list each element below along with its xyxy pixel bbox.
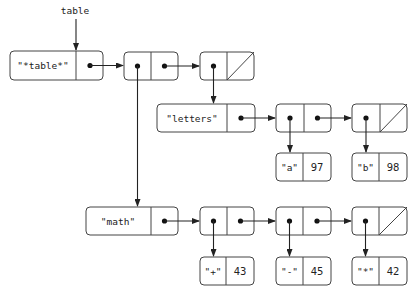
record-a: "a" 97 <box>276 153 331 181</box>
table-label: table <box>61 5 90 16</box>
math-head-car: "math" <box>101 216 135 227</box>
record-key: "-" <box>281 266 298 277</box>
record-key: "*" <box>357 266 374 277</box>
record-plus: "+" 43 <box>200 257 254 285</box>
record-b: "b" 98 <box>352 153 407 181</box>
record-value: 43 <box>234 266 247 277</box>
letters-head-pair: "letters" <box>157 104 255 132</box>
record-key: "b" <box>357 162 374 173</box>
record-value: 45 <box>311 266 324 277</box>
record-key: "a" <box>281 162 298 173</box>
table-head-car: "*table*" <box>17 60 68 71</box>
record-value: 42 <box>387 266 400 277</box>
record-star: "*" 42 <box>352 257 407 285</box>
record-key: "+" <box>204 266 221 277</box>
math-head-pair: "math" <box>86 207 178 235</box>
record-value: 98 <box>387 162 400 173</box>
letters-pair-2 <box>352 104 407 132</box>
record-value: 97 <box>311 162 324 173</box>
record-minus: "-" 45 <box>276 257 331 285</box>
letters-head-car: "letters" <box>166 113 217 124</box>
math-pair-3 <box>352 207 407 235</box>
spine-pair-2 <box>200 52 254 80</box>
table-head-pair: "*table*" <box>10 51 103 80</box>
box-pointer-diagram: table "*table*" "letters" <box>0 0 415 297</box>
